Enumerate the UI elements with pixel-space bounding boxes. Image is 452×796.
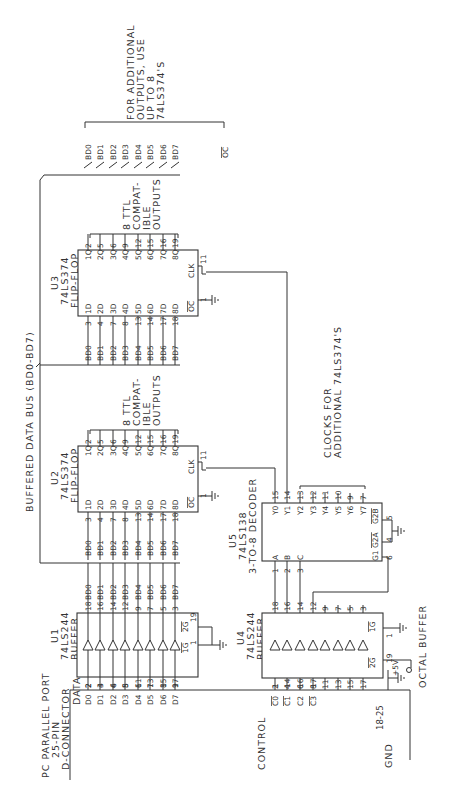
u3-in-net: BD2 xyxy=(109,345,118,361)
clock-edge-icon xyxy=(198,266,206,274)
vcc-terminal-icon xyxy=(407,668,412,673)
u3-d-label: 1D xyxy=(84,303,93,314)
u4-in-pin: 11 xyxy=(321,679,330,689)
octal-buffer-label: OCTAL BUFFER xyxy=(417,605,428,688)
u3-q-label: 5Q xyxy=(134,249,143,260)
data-group-label: DATA xyxy=(71,677,82,705)
u3-q-pin: 2 xyxy=(84,243,93,248)
u2-in-net: BD0 xyxy=(84,540,93,556)
u1-enable-wire xyxy=(198,627,212,645)
u2-in-net: BD5 xyxy=(146,540,155,556)
u2-q-pin: 5 xyxy=(96,439,105,444)
u5-y-label: Y1 xyxy=(283,505,292,516)
schematic-page: PC PARALLEL PORT 25-PIN D-CONNECTOR DATA… xyxy=(0,0,452,796)
u1-title: U1 74LS244 BUFFER xyxy=(49,611,80,660)
u3-q-pin: 5 xyxy=(96,243,105,248)
u2-q-pin: 2 xyxy=(84,439,93,444)
u5-g1-label: G1 xyxy=(371,550,380,561)
u3-q-pin: 12 xyxy=(134,238,143,248)
u3-title: U3 74LS374 FLIP-FLOP xyxy=(49,253,80,308)
u3-q-label: 7Q xyxy=(159,249,168,260)
u3-q-pin: 15 xyxy=(146,238,155,248)
u1-out-net: BD3 xyxy=(121,584,130,600)
svg-text:ADDITIONAL 74LS374'S: ADDITIONAL 74LS374'S xyxy=(332,326,343,458)
u2-title: U2 74LS374 FLIP-FLOP xyxy=(49,448,80,503)
u2-q-pin: 15 xyxy=(146,434,155,444)
u2-d-label: 4D xyxy=(121,499,130,510)
u1-g2-pin: 19 xyxy=(189,612,198,622)
u5-y-label: Y2 xyxy=(296,505,305,516)
u1-out-net: BD2 xyxy=(109,584,118,600)
u3-q-label: 6Q xyxy=(146,249,155,260)
u1-out-net: BD5 xyxy=(146,584,155,600)
u5-g2a-label: G2A xyxy=(371,531,380,548)
u5-g1-wire xyxy=(313,557,388,613)
u3-in-net: BD5 xyxy=(146,345,155,361)
u4-title: U4 74LS244 BUFFER xyxy=(235,611,266,660)
u5-y-pin: 10 xyxy=(334,490,343,500)
u2-in-net: BD1 xyxy=(96,540,105,556)
u3-q-label: 8Q xyxy=(171,249,180,260)
u3-q-label: 4Q xyxy=(121,249,130,260)
u2-d-pin: 18 xyxy=(171,512,180,522)
u2-q-label: 5Q xyxy=(134,445,143,456)
u2-clock-wire xyxy=(206,468,275,493)
u2-in-net: BD2 xyxy=(109,540,118,556)
u2-q-pin: 6 xyxy=(109,439,118,444)
u3-q-pin: 9 xyxy=(121,243,130,248)
expansion-net: BD1 xyxy=(96,144,105,160)
u2-in-net: BD4 xyxy=(134,540,143,556)
u3-d-label: 7D xyxy=(159,303,168,314)
u2-q-pin: 19 xyxy=(171,434,180,444)
u3-q-label: 1Q xyxy=(84,249,93,260)
u5-g2b-label: G2B xyxy=(371,508,380,524)
u5-input-pin: 2 xyxy=(283,568,292,573)
u2-d-pin: 8 xyxy=(121,517,130,522)
expansion-net: BD4 xyxy=(134,144,143,160)
expansion-note: FOR ADDITIONAL OUTPUTS, USE UP TO 8 74LS… xyxy=(125,25,166,120)
connector-control-pin-name: C2 xyxy=(296,696,305,706)
connector-data-pin-name: D1 xyxy=(96,694,105,705)
u5-g2b-pin: 5 xyxy=(385,515,394,520)
u1-in-pin: 15 xyxy=(159,678,168,688)
u2-in-net: BD6 xyxy=(159,540,168,556)
u3-outputs-note: OUTPUTS xyxy=(151,178,162,230)
u1-out-pin: 12 xyxy=(121,601,130,611)
connector-data-pin-name: D3 xyxy=(121,694,130,705)
u2-d-label: 1D xyxy=(84,499,93,510)
u1-in-pin: 13 xyxy=(146,678,155,688)
u3-clk-label: CLK xyxy=(187,263,196,278)
u2-in-net: BD7 xyxy=(171,540,180,556)
u5-y-pin: 13 xyxy=(296,490,305,500)
u1-out-net: BD6 xyxy=(159,584,168,600)
u4-in-pin: 13 xyxy=(334,679,343,689)
u2-d-pin: 3 xyxy=(84,517,93,522)
u3-q-pin: 6 xyxy=(109,243,118,248)
u2-outputs-bracket xyxy=(90,430,178,434)
clock-edge-icon xyxy=(198,462,206,470)
u1-out-pin: 5 xyxy=(159,606,168,611)
u1-out-pin: 7 xyxy=(146,606,155,611)
u5-y-label: Y0 xyxy=(271,505,280,516)
gnd-label: GND xyxy=(383,743,394,768)
u5-title: U5 74LS138 3-TO-8 DECODER xyxy=(227,478,258,574)
u2-d-pin: 13 xyxy=(134,512,143,522)
gnd-pin-range: 18-25 xyxy=(375,705,385,730)
u2-q-label: 7Q xyxy=(159,445,168,456)
u2-q-pin: 12 xyxy=(134,434,143,444)
u5-input-pin: 1 xyxy=(271,568,280,573)
expansion-net: BD2 xyxy=(109,144,118,160)
u3-q-label: 3Q xyxy=(109,249,118,260)
u1-out-pin: 14 xyxy=(109,601,118,611)
u3-in-net: BD4 xyxy=(134,345,143,361)
u2-q-label: 6Q xyxy=(146,445,155,456)
connector-control-pin-name: C1 xyxy=(283,696,292,706)
u3-q-pin: 19 xyxy=(171,238,180,248)
u1-in-pin: 6 xyxy=(109,683,118,688)
u5-y-pin: 7 xyxy=(359,495,368,500)
u1-g1-pin: 1 xyxy=(189,640,198,645)
u2-clk-pin: 11 xyxy=(199,450,208,460)
u1-in-pin: 4 xyxy=(96,683,105,688)
expansion-oc: OC xyxy=(221,147,230,158)
expansion-tick xyxy=(146,162,154,168)
